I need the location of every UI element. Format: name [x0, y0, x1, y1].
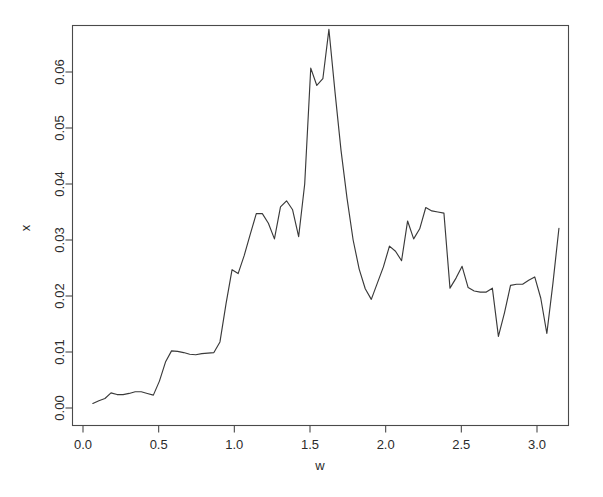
y-axis-title: x [18, 224, 33, 231]
y-tick-label: 0.00 [52, 395, 67, 420]
y-tick-label: 0.06 [52, 59, 67, 84]
x-tick-label: 2.5 [452, 437, 470, 452]
y-tick-label: 0.05 [52, 115, 67, 140]
x-tick-label: 0.5 [150, 437, 168, 452]
x-tick-label: 1.5 [301, 437, 319, 452]
chart-canvas: 0.00.51.01.52.02.53.0 0.000.010.020.030.… [0, 0, 603, 497]
y-tick-label: 0.01 [52, 339, 67, 364]
x-tick-label: 2.0 [377, 437, 395, 452]
figure-background [0, 0, 603, 497]
y-tick-label: 0.04 [52, 171, 67, 196]
y-tick-label: 0.03 [52, 227, 67, 252]
x-tick-label: 1.0 [225, 437, 243, 452]
y-tick-label: 0.02 [52, 283, 67, 308]
plot-figure: 0.00.51.01.52.02.53.0 0.000.010.020.030.… [0, 0, 603, 497]
x-axis-title: w [314, 458, 325, 473]
x-tick-label: 0.0 [74, 437, 92, 452]
x-tick-label: 3.0 [528, 437, 546, 452]
